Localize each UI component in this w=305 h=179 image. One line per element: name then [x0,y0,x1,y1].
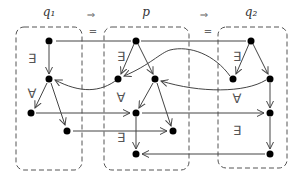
node-q2-o [267,151,274,158]
equals-2: = [204,26,212,37]
node-p-g [152,76,159,83]
label-q2: q₂ [245,5,258,19]
q2-forall-label: ∀ [233,91,242,106]
node-q1-root [46,38,53,45]
p-exists-top-label: ∃ [117,49,125,64]
label-q1: q₁ [43,5,56,19]
implies-1: ⇒ [87,9,95,20]
node-p-h [133,110,140,117]
box-q2 [218,27,287,168]
q1-forall-label: ∀ [28,86,37,101]
node-q1-c [28,110,35,117]
q1-exists-label: ∃ [28,51,36,66]
implies-2: ⇒ [200,9,208,20]
node-q2-l [230,76,237,83]
q2-exists-bottom-label: ∃ [233,123,241,138]
node-q1-b [46,76,53,83]
node-p-f [115,76,122,83]
q2-exists-top-label: ∃ [233,49,241,64]
node-p-root [133,38,140,45]
node-q2-m [267,76,274,83]
equals-1: = [89,26,97,37]
node-q2-root [248,38,255,45]
diagram-canvas [0,0,305,179]
node-p-i [170,128,177,135]
p-exists-bottom-label: ∃ [117,130,125,145]
node-p-j [133,151,140,158]
label-p: p [142,5,150,19]
p-forall-label: ∀ [117,90,126,105]
node-q1-d [64,128,71,135]
node-q2-n [267,110,274,117]
